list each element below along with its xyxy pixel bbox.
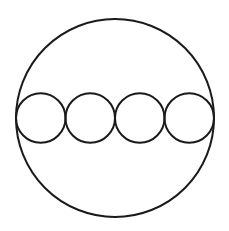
inner-circle-1 — [16, 93, 66, 143]
inner-circles-row — [16, 93, 214, 143]
inner-circle-4 — [165, 93, 215, 143]
inner-circle-2 — [66, 93, 116, 143]
inner-circle-3 — [115, 93, 165, 143]
circles-diagram — [0, 0, 229, 231]
